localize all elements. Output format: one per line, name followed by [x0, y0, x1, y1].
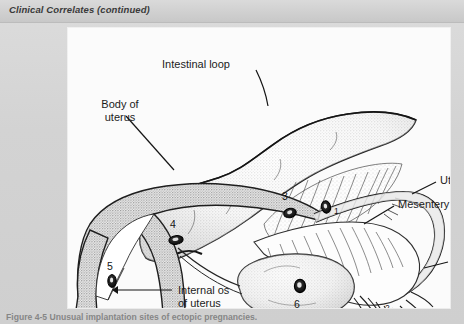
marker-5-label: 5	[107, 260, 113, 272]
label-uterine-tube: Uterine tube	[440, 174, 450, 186]
label-mesentery: Mesentery	[398, 198, 450, 210]
figure-panel: 1 2 3 4 5	[68, 28, 450, 308]
marker-1-label: 1	[334, 206, 339, 216]
label-internal-os-line1: Internal os	[178, 284, 230, 296]
marker-6-label: 6	[294, 298, 300, 308]
label-internal-os-line2: of uterus	[178, 297, 221, 308]
marker-4-label: 4	[170, 218, 176, 230]
marker-3-label: 3	[282, 190, 288, 202]
anatomical-illustration: 1 2 3 4 5	[68, 28, 450, 308]
section-header-title: Clinical Correlates (continued)	[9, 4, 150, 15]
label-intestinal-loop: Intestinal loop	[162, 58, 230, 70]
label-body-of-uterus-line1: Body of	[101, 98, 139, 110]
page-root: Clinical Correlates (continued)	[0, 0, 464, 324]
label-body-of-uterus-line2: uterus	[105, 111, 136, 123]
section-header-band: Clinical Correlates (continued)	[0, 0, 464, 23]
marker-2-label: 2	[385, 303, 390, 308]
figure-caption: Figure 4-5 Unusual implantation sites of…	[6, 312, 458, 322]
